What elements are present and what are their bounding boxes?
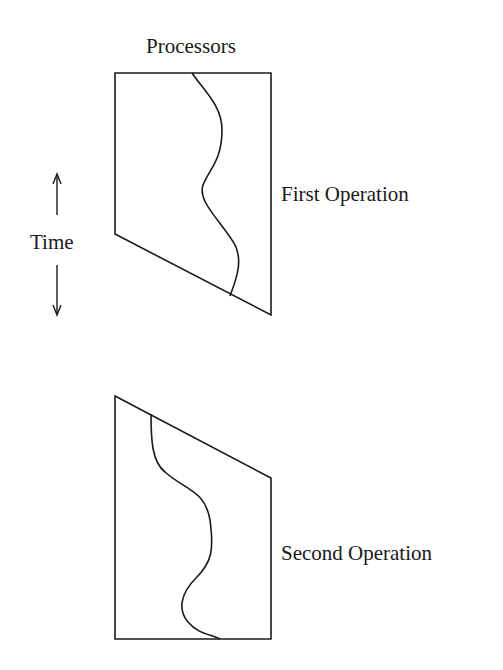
time-label: Time: [30, 230, 74, 255]
second-operation-region: [115, 396, 271, 639]
second-operation-label: Second Operation: [281, 541, 432, 566]
diagram-canvas: [0, 0, 503, 670]
first-operation-region: [115, 73, 271, 315]
second-operation-wavefront: [151, 414, 220, 639]
processors-label: Processors: [146, 34, 236, 59]
first-operation-wavefront: [192, 73, 239, 296]
first-operation-label: First Operation: [281, 182, 409, 207]
